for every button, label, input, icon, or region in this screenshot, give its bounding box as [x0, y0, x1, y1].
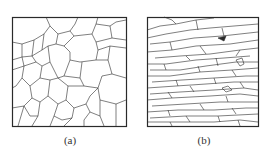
panel-b-elongated-grains — [147, 17, 259, 127]
panel-a-equiaxed-grains — [12, 17, 127, 127]
panel-a-label: (a) — [50, 134, 90, 146]
panel-b-label: (b) — [184, 134, 224, 146]
